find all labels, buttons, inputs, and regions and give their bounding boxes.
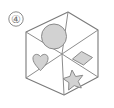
option-number-label: ④ [11, 13, 21, 25]
cube-diagram: ④ [0, 0, 114, 108]
option-number-badge: ④ [9, 12, 23, 26]
face-shape-circle-icon [42, 24, 67, 49]
figure-container: ④ [0, 0, 114, 108]
